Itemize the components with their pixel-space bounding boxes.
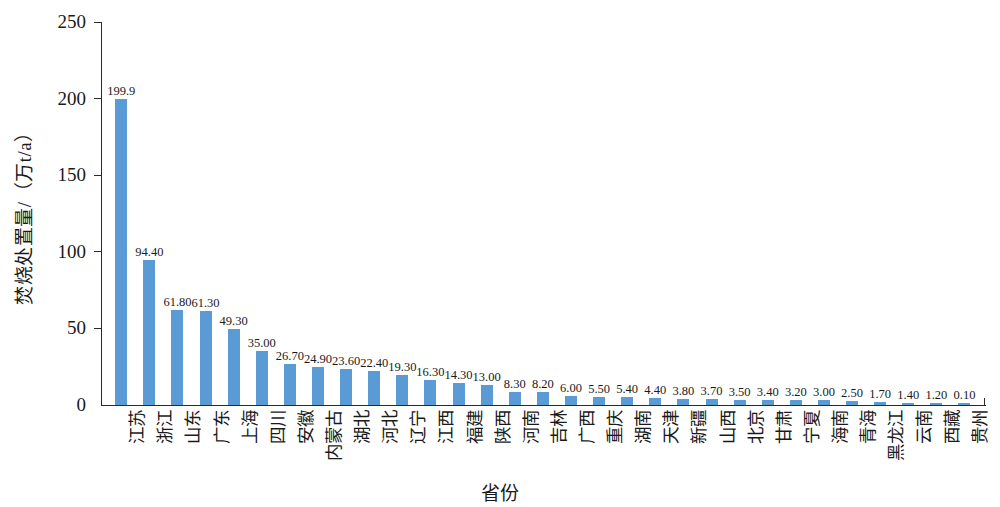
bar[interactable] (734, 400, 746, 405)
y-axis-tick-label: 250 (36, 12, 86, 31)
x-axis-label-text: 甘肃 (776, 410, 794, 444)
bars-layer (101, 22, 985, 405)
y-axis-tick-label: 150 (36, 165, 86, 184)
x-axis-category-label[interactable]: 广东 (214, 410, 232, 444)
bar[interactable] (143, 260, 155, 405)
bar[interactable] (762, 400, 774, 405)
x-axis-label-text: 河南 (523, 410, 541, 444)
bar[interactable] (790, 400, 802, 405)
x-axis-category-label[interactable]: 陕西 (495, 410, 513, 444)
bar[interactable] (284, 364, 296, 405)
bar[interactable] (677, 399, 689, 405)
bar[interactable] (340, 369, 352, 405)
x-axis-label-text: 北京 (748, 410, 766, 444)
bar[interactable] (228, 329, 240, 405)
x-axis-label-text: 青海 (860, 410, 878, 444)
x-axis-category-label[interactable]: 甘肃 (776, 410, 794, 444)
bar-chart: 焚烧处置量/（万t/a） 050100150200250 199.994.406… (0, 0, 1000, 507)
x-axis-category-label[interactable]: 江西 (438, 410, 456, 444)
x-axis-label-text: 内蒙古 (326, 410, 344, 461)
bar[interactable] (621, 397, 633, 405)
x-axis-category-label[interactable]: 江苏 (129, 410, 147, 444)
x-axis-label-text: 江西 (438, 410, 456, 444)
x-axis-category-label[interactable]: 四川 (270, 410, 288, 444)
x-axis-category-label[interactable]: 西藏 (944, 410, 962, 444)
x-axis-label-text: 云南 (916, 410, 934, 444)
x-axis-category-label[interactable]: 海南 (832, 410, 850, 444)
x-axis-label-text: 湖南 (635, 410, 653, 444)
bar[interactable] (874, 402, 886, 405)
bar[interactable] (453, 383, 465, 405)
bar-value-label: 61.30 (184, 297, 228, 310)
x-axis-category-label[interactable]: 天津 (663, 410, 681, 444)
x-axis-category-label[interactable]: 浙江 (157, 410, 175, 444)
bar-value-label: 35.00 (240, 337, 284, 350)
bar[interactable] (818, 400, 830, 405)
bar[interactable] (593, 397, 605, 405)
bar[interactable] (312, 367, 324, 405)
x-axis-category-label[interactable]: 河南 (523, 410, 541, 444)
bar[interactable] (115, 99, 127, 405)
bar[interactable] (565, 396, 577, 405)
x-axis-category-label[interactable]: 贵州 (972, 410, 990, 444)
x-axis-label-text: 上海 (242, 410, 260, 444)
x-axis-label-text: 西藏 (944, 410, 962, 444)
y-axis-title: 焚烧处置量/（万t/a） (9, 44, 36, 384)
x-axis-label-text: 江苏 (129, 410, 147, 444)
x-axis-category-label[interactable]: 山西 (720, 410, 738, 444)
x-axis-category-label[interactable]: 青海 (860, 410, 878, 444)
x-axis-category-label[interactable]: 辽宁 (410, 410, 428, 444)
x-axis-label-text: 山东 (185, 410, 203, 444)
x-axis-category-label[interactable]: 湖南 (635, 410, 653, 444)
x-axis-label-text: 福建 (467, 410, 485, 444)
x-axis-category-label[interactable]: 内蒙古 (326, 410, 344, 461)
x-axis-label-text: 宁夏 (804, 410, 822, 444)
x-axis-category-label[interactable]: 山东 (185, 410, 203, 444)
x-axis-category-label[interactable]: 福建 (467, 410, 485, 444)
bar[interactable] (424, 380, 436, 405)
x-axis-category-label[interactable]: 北京 (748, 410, 766, 444)
x-axis-category-label[interactable]: 重庆 (607, 410, 625, 444)
bar[interactable] (396, 375, 408, 405)
bar[interactable] (649, 398, 661, 405)
x-axis-label-text: 山西 (720, 410, 738, 444)
y-axis-tick-label: 200 (36, 89, 86, 108)
x-axis-category-label[interactable]: 吉林 (551, 410, 569, 444)
x-axis-label-text: 辽宁 (410, 410, 428, 444)
x-axis-label-text: 海南 (832, 410, 850, 444)
x-axis-category-label[interactable]: 宁夏 (804, 410, 822, 444)
x-axis-category-label[interactable]: 河北 (382, 410, 400, 444)
bar-value-label: 94.40 (127, 246, 171, 259)
x-axis-label-text: 湖北 (354, 410, 372, 444)
bar[interactable] (846, 401, 858, 405)
bar-value-label: 0.10 (942, 389, 986, 402)
bar[interactable] (958, 403, 970, 405)
bar[interactable] (256, 351, 268, 405)
x-axis-category-label[interactable]: 广西 (579, 410, 597, 444)
x-axis-title: 省份 (0, 478, 1000, 505)
x-axis-label-text: 广西 (579, 410, 597, 444)
bar[interactable] (481, 385, 493, 405)
x-axis-label-text: 陕西 (495, 410, 513, 444)
x-axis-category-label[interactable]: 湖北 (354, 410, 372, 444)
x-axis-category-label[interactable]: 上海 (242, 410, 260, 444)
x-axis-label-text: 黑龙江 (888, 410, 906, 461)
bar[interactable] (930, 403, 942, 405)
x-axis-category-label[interactable]: 黑龙江 (888, 410, 906, 461)
bar[interactable] (902, 403, 914, 405)
bar[interactable] (537, 392, 549, 405)
bar[interactable] (200, 311, 212, 405)
x-axis-category-label[interactable]: 云南 (916, 410, 934, 444)
x-axis-label-text: 重庆 (607, 410, 625, 444)
y-axis-tick-label: 50 (36, 318, 86, 337)
bar[interactable] (171, 310, 183, 405)
x-axis-category-label[interactable]: 安徽 (298, 410, 316, 444)
bar[interactable] (368, 371, 380, 405)
bar[interactable] (706, 399, 718, 405)
bar[interactable] (509, 392, 521, 405)
x-axis-label-text: 吉林 (551, 410, 569, 444)
x-axis-label-text: 新疆 (691, 410, 709, 444)
x-axis-category-label[interactable]: 新疆 (691, 410, 709, 444)
y-axis-tick-label: 0 (36, 395, 86, 414)
x-axis-label-text: 广东 (214, 410, 232, 444)
